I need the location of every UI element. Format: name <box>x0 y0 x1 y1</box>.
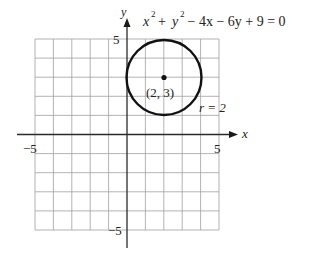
y-tick-5: 5 <box>113 32 120 47</box>
center-point <box>161 75 166 80</box>
y-axis-label: y <box>120 5 127 19</box>
y-tick-neg5: −5 <box>108 223 122 238</box>
svg-text:2: 2 <box>151 9 156 19</box>
circle-graph: y x 5 −5 −5 5 (2, 3) r = 2 x 2 + y 2 − 4… <box>0 0 315 266</box>
radius-label: r = 2 <box>199 100 226 115</box>
svg-text:x: x <box>142 14 150 29</box>
equation: x 2 + y 2 − 4x − 6y + 9 = 0 <box>142 9 286 29</box>
svg-text:− 4x − 6y + 9 = 0: − 4x − 6y + 9 = 0 <box>184 14 286 29</box>
x-tick-5: 5 <box>214 141 221 156</box>
y-axis-arrow-icon <box>124 18 131 27</box>
axes <box>17 22 232 248</box>
x-axis-label: x <box>241 126 248 141</box>
x-axis-arrow-icon <box>229 131 238 138</box>
svg-text:+: + <box>158 14 166 29</box>
svg-text:y: y <box>170 14 179 29</box>
x-tick-neg5: −5 <box>23 141 37 156</box>
center-label: (2, 3) <box>146 85 174 100</box>
